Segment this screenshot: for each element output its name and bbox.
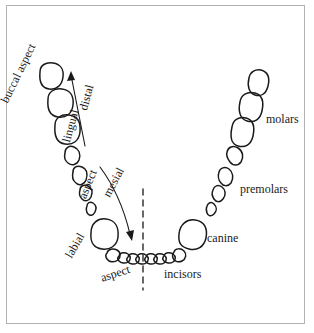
tooth-left-premolar-4 [64,146,79,164]
tooth-right-premolar-3 [218,168,232,186]
tooth-left-molar-3 [40,63,63,89]
tooth-right-molar-3 [248,70,268,96]
tooth-left-canine [91,219,118,249]
label-molars: molars [266,113,299,125]
label-incisors: incisors [164,268,201,280]
tooth-left-premolar-1 [86,202,96,215]
tooth-right-premolar-2 [212,186,225,202]
label-premolars: premolars [240,183,288,195]
tooth-right-premolar-1 [206,203,216,216]
dental-arch-drawing [0,0,314,333]
tooth-right-canine [179,220,207,250]
tooth-right-premolar-4 [227,147,243,165]
figure-canvas: buccal aspect distal lingual aspect mesi… [0,0,314,333]
label-canine: canine [207,232,238,244]
